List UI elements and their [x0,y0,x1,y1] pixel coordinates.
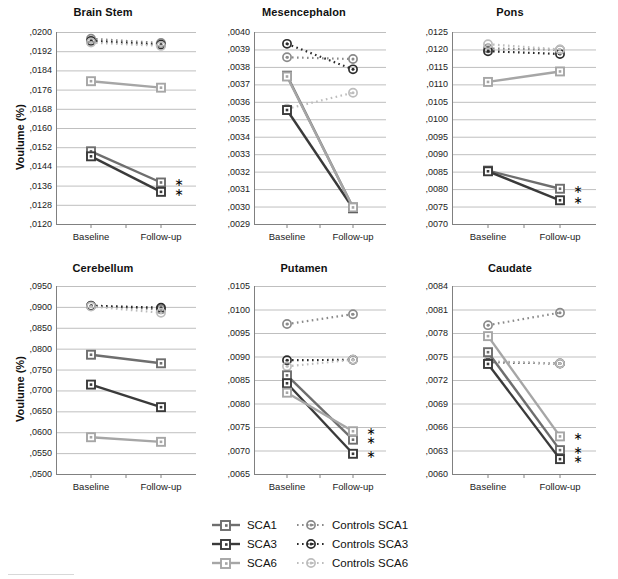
panel-grid: Brain StemVoulume (%),0120,0128,0136,014… [0,0,618,512]
y-axis-tick-label: ,0550 [29,448,52,458]
y-axis-tick-label: ,0950 [29,281,52,291]
data-point-marker-dot [487,363,490,366]
significance-asterisk: ∗ [573,195,582,206]
panel-title: Pons [402,6,618,18]
y-axis-tick-label: ,0090 [227,352,250,362]
data-point-marker-dot [90,305,93,308]
y-axis-tick-label: ,0090 [425,149,448,159]
y-axis-tick-label: ,0066 [425,422,448,432]
series-line [488,364,560,459]
y-axis-tick-label: ,0075 [425,202,448,212]
y-axis-tick-label: ,0081 [425,305,448,315]
series-line [287,77,353,208]
legend-key-icon [210,557,244,569]
data-point-marker-dot [487,81,490,84]
y-axis-tick-label: ,0065 [227,469,250,479]
data-point-marker-dot [487,170,490,173]
chart-panel-putamen: Putamen,0065,0070,0075,0080,0085,0090,00… [206,256,402,508]
data-point-marker-dot [286,382,289,385]
series-line [287,375,353,439]
y-axis-tick-label: ,0035 [227,114,250,124]
y-axis-tick-label: ,0200 [29,27,52,37]
x-axis-tick-label: Follow-up [528,481,592,492]
data-point-marker-dot [286,391,289,394]
y-axis-tick-label: ,0034 [227,132,250,142]
x-axis-tick-label: Baseline [59,481,123,492]
y-axis-tick-label: ,0075 [227,422,250,432]
footer-divider [8,574,74,575]
legend-item-label: Controls SCA1 [332,519,408,531]
data-point-marker-dot [352,313,355,316]
data-point-marker-dot [559,48,562,51]
data-point-marker-dot [90,353,93,356]
y-axis-tick-label: ,0650 [29,406,52,416]
legend-item-sca6[interactable]: SCA6 [210,554,277,571]
data-point-marker-dot [160,181,163,184]
data-point-marker-dot [559,70,562,73]
legend-item-label: SCA6 [247,557,277,569]
data-point-marker-dot [559,311,562,314]
y-axis-tick-label: ,0850 [29,323,52,333]
y-axis-tick-label: ,0032 [227,167,250,177]
y-axis-tick-label: ,0125 [425,27,448,37]
legend-key-icon [210,519,244,531]
legend-item-controls-sca1[interactable]: Controls SCA1 [295,516,408,533]
significance-asterisk: ∗ [366,448,375,459]
y-axis-label: Voulume (%) [14,356,26,422]
y-axis-tick-label: ,0136 [29,181,52,191]
x-axis-tick-label: Baseline [255,481,319,492]
y-axis-tick-label: ,0100 [227,305,250,315]
x-axis-tick-label: Follow-up [129,231,193,242]
chart-panel-mesencephalon: Mesencephalon,0029,0030,0031,0032,0033,0… [206,0,402,256]
data-point-marker-dot [559,458,562,461]
y-axis-tick-label: ,0152 [29,142,52,152]
data-point-marker-dot [286,365,289,368]
data-point-marker-dot [352,452,355,455]
legend-key-icon [210,538,244,550]
y-axis-tick-label: ,0085 [227,375,250,385]
y-axis-tick-label: ,0072 [425,375,448,385]
x-axis-tick-label: Baseline [59,231,123,242]
x-axis-tick-label: Follow-up [528,231,592,242]
legend-item-sca1[interactable]: SCA1 [210,516,277,533]
data-point-marker-dot [90,155,93,158]
plot-area [56,286,198,476]
y-axis-tick-label: ,0033 [227,149,250,159]
data-point-marker-dot [160,406,163,409]
data-point-marker-dot [160,362,163,365]
y-axis-tick-label: ,0800 [29,344,52,354]
data-point-marker-dot [352,430,355,433]
data-point-marker-dot [90,41,93,44]
y-axis-tick-label: ,0040 [227,27,250,37]
series-line [287,360,353,367]
y-axis-tick-label: ,0192 [29,46,52,56]
series-line [488,313,560,326]
legend-item-sca3[interactable]: SCA3 [210,535,277,552]
y-axis-tick-label: ,0075 [425,352,448,362]
legend-item-label: Controls SCA3 [332,538,408,550]
x-axis-tick-label: Baseline [456,481,520,492]
series-line [91,437,161,442]
legend-item-label: Controls SCA6 [332,557,408,569]
series-line [488,71,560,81]
data-point-marker-dot [352,91,355,94]
data-point-marker-dot [559,199,562,202]
series-line [91,385,161,408]
data-point-marker-dot [559,449,562,452]
series-line [287,110,353,208]
data-point-marker-dot [559,362,562,365]
legend-item-controls-sca3[interactable]: Controls SCA3 [295,535,408,552]
data-point-marker-dot [352,58,355,61]
y-axis-tick-label: ,0120 [29,219,52,229]
legend-key-icon [295,519,329,531]
panel-title: Caudate [402,262,618,274]
legend-item-controls-sca6[interactable]: Controls SCA6 [295,554,408,571]
y-axis-tick-label: ,0144 [29,161,52,171]
y-axis-tick-label: ,0039 [227,44,250,54]
data-point-marker-dot [352,206,355,209]
panel-title: Brain Stem [0,6,206,18]
y-axis-tick-label: ,0070 [227,446,250,456]
panel-title: Mesencephalon [206,6,402,18]
data-point-marker-dot [286,374,289,377]
y-axis-tick-label: ,0038 [227,62,250,72]
